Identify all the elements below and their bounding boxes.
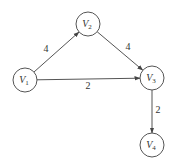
node-subscript: 3 bbox=[152, 77, 156, 85]
node-v1: V1 bbox=[13, 68, 37, 92]
edge-weight-label: 2 bbox=[86, 80, 91, 91]
node-subscript: 1 bbox=[25, 79, 29, 87]
edge-weight-label: 2 bbox=[156, 104, 161, 115]
node-v3: V3 bbox=[140, 66, 164, 90]
edge-v2-v3 bbox=[97, 32, 143, 71]
directed-graph: 4422 V1V2V3V4 bbox=[0, 0, 174, 163]
node-v2: V2 bbox=[76, 12, 100, 36]
node-subscript: 2 bbox=[88, 23, 92, 31]
edge-weight-label: 4 bbox=[44, 43, 49, 54]
node-v4: V4 bbox=[140, 133, 164, 157]
edge-v1-v2 bbox=[34, 32, 79, 72]
edge-weight-label: 4 bbox=[126, 41, 131, 52]
node-subscript: 4 bbox=[152, 144, 156, 152]
